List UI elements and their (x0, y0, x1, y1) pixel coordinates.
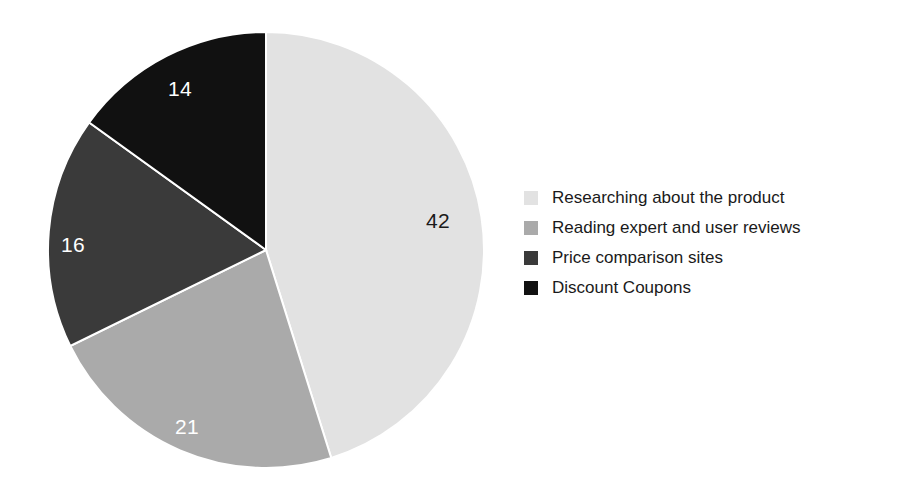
legend-item[interactable]: Discount Coupons (521, 273, 901, 303)
pie-slice-value-label: 42 (426, 209, 450, 232)
chart-legend: Researching about the productReading exp… (521, 183, 901, 303)
legend-item-label: Researching about the product (552, 189, 785, 207)
legend-color-swatch (524, 251, 538, 265)
pie-slice-value-label: 21 (175, 415, 199, 438)
pie-chart-plot-area: 42211614 (0, 0, 520, 479)
legend-color-swatch (524, 221, 538, 235)
pie-slice-value-label: 14 (168, 77, 192, 100)
legend-color-swatch (524, 281, 538, 295)
pie-slice-value-label: 16 (61, 233, 85, 256)
legend-item[interactable]: Reading expert and user reviews (521, 213, 901, 243)
legend-item-label: Price comparison sites (552, 249, 723, 267)
pie-slice-group (48, 32, 484, 468)
legend-item[interactable]: Price comparison sites (521, 243, 901, 273)
legend-item[interactable]: Researching about the product (521, 183, 901, 213)
legend-item-label: Reading expert and user reviews (552, 219, 801, 237)
legend-color-swatch (524, 191, 538, 205)
legend-item-label: Discount Coupons (552, 279, 691, 297)
pie-chart-figure: 42211614 Researching about the productRe… (0, 0, 907, 479)
pie-chart-svg: 42211614 (0, 0, 520, 479)
